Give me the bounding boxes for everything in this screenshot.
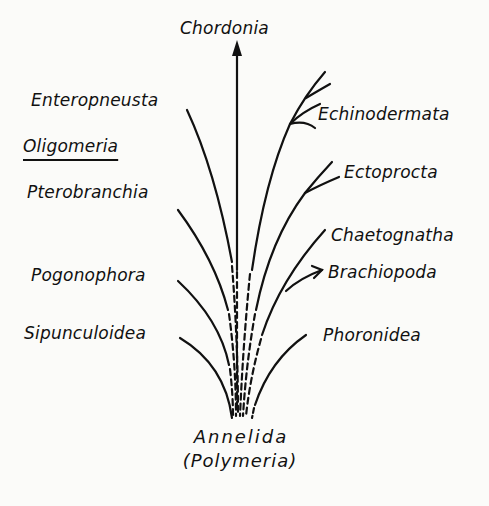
label-enteropneusta: Enteropneusta (31, 92, 158, 109)
label-oligomeria-group: Oligomeria (23, 138, 118, 155)
branch-pterobranchia (178, 210, 228, 310)
label-brachiopoda: Brachiopoda (328, 264, 437, 281)
branch-pogonophora (178, 281, 229, 365)
branch-phoronidea-dashed (252, 408, 254, 418)
branch-phoronidea (255, 335, 306, 405)
label-pogonophora: Pogonophora (31, 267, 146, 284)
label-sipunculoidea: Sipunculoidea (24, 325, 146, 342)
branch-chaetognatha (262, 230, 325, 335)
label-pterobranchia: Pterobranchia (27, 184, 149, 201)
label-phoronidea: Phoronidea (323, 327, 421, 344)
branch-echinodermata (252, 72, 325, 270)
label-chordonia: Chordonia (180, 20, 269, 37)
label-chaetognatha: Chaetognatha (331, 227, 454, 244)
arrow-head (232, 40, 242, 56)
label-ectoprocta: Ectoprocta (344, 164, 438, 181)
branch-enteropneusta (187, 110, 232, 262)
branch-chaetognatha-dashed (246, 339, 261, 416)
label-echinodermata: Echinodermata (318, 106, 450, 123)
label-polymeria: (Polymeria) (170, 452, 310, 470)
label-annelida: Annelida (181, 428, 301, 446)
